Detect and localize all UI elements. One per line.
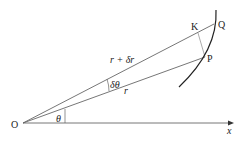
label-origin: O: [11, 119, 18, 130]
line-op: [23, 57, 205, 123]
polar-diagram: O Q K P r + δr r δθ θ x: [0, 0, 241, 143]
label-p: P: [207, 53, 213, 64]
label-x-axis: x: [226, 125, 232, 136]
label-k: K: [191, 21, 199, 32]
line-pk: [198, 33, 205, 57]
label-delta-theta: δθ: [110, 79, 120, 90]
label-r: r: [124, 85, 128, 96]
label-q: Q: [218, 19, 226, 30]
label-r-plus-delta-r: r + δr: [110, 54, 134, 65]
delta-theta-arc: [107, 79, 109, 91]
label-theta: θ: [56, 113, 61, 124]
line-oq: [23, 24, 214, 123]
